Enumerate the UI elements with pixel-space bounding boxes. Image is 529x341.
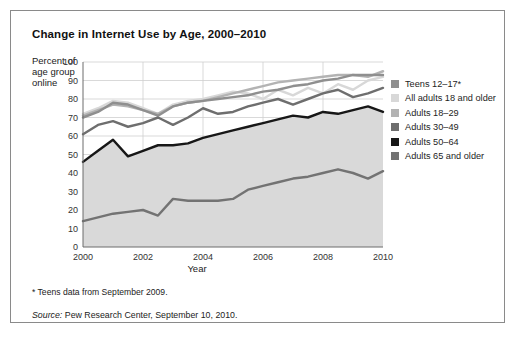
plot-area: 0102030405060708090100 20002002200420062… xyxy=(11,11,506,324)
svg-text:2008: 2008 xyxy=(313,252,333,262)
svg-text:30: 30 xyxy=(68,187,78,197)
svg-text:90: 90 xyxy=(68,76,78,86)
legend-label: All adults 18 and older xyxy=(405,93,496,103)
legend-label: Adults 65 and older xyxy=(405,151,484,161)
svg-text:20: 20 xyxy=(68,205,78,215)
legend-swatch-icon xyxy=(391,94,399,102)
source-line: Source: Pew Research Center, September 1… xyxy=(32,310,237,320)
chart-legend: Teens 12–17*All adults 18 and olderAdult… xyxy=(391,79,503,165)
source-text: Pew Research Center, September 10, 2010. xyxy=(62,310,237,320)
svg-text:2000: 2000 xyxy=(73,252,93,262)
y-tick-labels: 0102030405060708090100 xyxy=(63,57,78,252)
svg-text:40: 40 xyxy=(68,168,78,178)
legend-label: Adults 18–29 xyxy=(405,108,459,118)
legend-label: Adults 50–64 xyxy=(405,137,459,147)
svg-text:100: 100 xyxy=(63,57,78,67)
source-label: Source: xyxy=(32,310,62,320)
legend-swatch-icon xyxy=(391,152,399,160)
svg-text:2006: 2006 xyxy=(253,252,273,262)
svg-text:70: 70 xyxy=(68,113,78,123)
legend-item: Adults 18–29 xyxy=(391,108,503,118)
svg-text:80: 80 xyxy=(68,94,78,104)
legend-item: Adults 65 and older xyxy=(391,151,503,161)
svg-text:2004: 2004 xyxy=(193,252,213,262)
svg-text:0: 0 xyxy=(73,242,78,252)
footnote: * Teens data from September 2009. xyxy=(32,287,168,297)
legend-swatch-icon xyxy=(391,80,399,88)
legend-item: Teens 12–17* xyxy=(391,79,503,89)
legend-item: All adults 18 and older xyxy=(391,93,503,103)
svg-text:50: 50 xyxy=(68,150,78,160)
legend-item: Adults 30–49 xyxy=(391,122,503,132)
legend-label: Teens 12–17* xyxy=(405,79,461,89)
x-axis-title: Year xyxy=(11,263,383,274)
legend-swatch-icon xyxy=(391,138,399,146)
x-tick-labels: 200020022004200620082010 xyxy=(73,252,393,262)
svg-text:60: 60 xyxy=(68,131,78,141)
svg-text:2002: 2002 xyxy=(133,252,153,262)
legend-label: Adults 30–49 xyxy=(405,122,459,132)
legend-item: Adults 50–64 xyxy=(391,137,503,147)
legend-swatch-icon xyxy=(391,109,399,117)
svg-text:2010: 2010 xyxy=(373,252,393,262)
figure-frame: Change in Internet Use by Age, 2000–2010… xyxy=(10,10,505,323)
line-chart: 0102030405060708090100 20002002200420062… xyxy=(11,11,506,324)
legend-swatch-icon xyxy=(391,123,399,131)
svg-text:10: 10 xyxy=(68,224,78,234)
